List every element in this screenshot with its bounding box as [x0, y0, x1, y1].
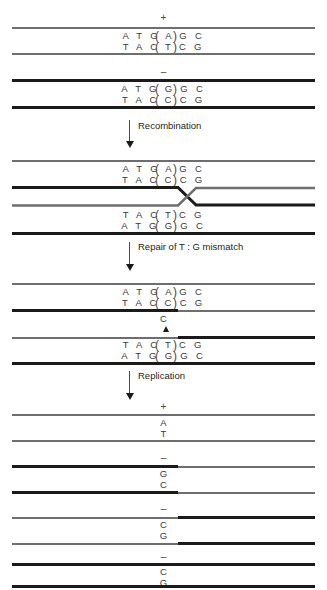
- heteroduplex-lower-top-bases: T A C T C G: [0, 210, 327, 220]
- replication-label: Replication: [138, 370, 185, 381]
- mismatch-paren-right: ): [173, 175, 177, 185]
- repaired-upper-top-bases: A T G A G C: [0, 287, 327, 297]
- product-3-top-base: C: [0, 520, 327, 530]
- parental-minus-top-bases: A T G G G C: [0, 84, 327, 94]
- mismatch-paren-left: (: [155, 95, 159, 105]
- mismatch-paren-right: ): [173, 221, 177, 231]
- mismatch-paren-left: (: [155, 298, 159, 308]
- parental-minus-sign: –: [0, 68, 327, 76]
- repair-arrow-icon: [163, 326, 169, 332]
- product-2-top-base: G: [0, 469, 327, 479]
- product-2-sign: –: [0, 454, 327, 462]
- mismatch-paren-left: (: [155, 175, 159, 185]
- heteroduplex-upper-bottom-bases: T A C C C G: [0, 175, 327, 185]
- parental-plus-bottom-bases: T A C T C G: [0, 42, 327, 52]
- mismatch-paren-right: ): [173, 298, 177, 308]
- product-1-sign: +: [0, 403, 327, 411]
- parental-plus-sign: +: [0, 14, 327, 22]
- mismatch-paren-right: ): [173, 42, 177, 52]
- product-3-bottom-base: G: [0, 531, 327, 541]
- repair-inserted-base: C: [0, 314, 327, 324]
- repaired-lower-top-bases: T A C T C G: [0, 340, 327, 350]
- heteroduplex-upper-top-bases: A T G A G C: [0, 164, 327, 174]
- product-4-top-base: C: [0, 567, 327, 577]
- repair-label: Repair of T : G mismatch: [138, 241, 243, 252]
- mismatch-paren-right: ): [173, 95, 177, 105]
- product-3-sign: –: [0, 505, 327, 513]
- repaired-lower-bottom-bases: A T G G G C: [0, 351, 327, 361]
- mismatch-paren-left: (: [155, 221, 159, 231]
- mismatch-paren-left: (: [155, 42, 159, 52]
- heteroduplex-lower-bottom-bases: A T G G G C: [0, 221, 327, 231]
- product-2-bottom-base: C: [0, 480, 327, 490]
- repaired-upper-bottom-bases: T A C C C G: [0, 298, 327, 308]
- product-1-top-base: A: [0, 418, 327, 428]
- product-4-sign: –: [0, 553, 327, 561]
- parental-plus-top-bases: A T G A G C: [0, 31, 327, 41]
- recombination-label: Recombination: [138, 120, 201, 131]
- parental-minus-bottom-bases: T A C C C G: [0, 95, 327, 105]
- product-1-bottom-base: T: [0, 429, 327, 439]
- recombination-diagram: + A T G A G C T A C T C G ( ) ( ) – A T …: [0, 0, 327, 590]
- mismatch-paren-left: (: [155, 351, 159, 361]
- mismatch-paren-right: ): [173, 351, 177, 361]
